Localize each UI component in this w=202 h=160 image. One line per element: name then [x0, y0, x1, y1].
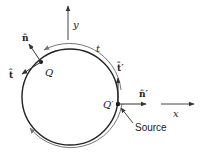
x-axis-label: x: [173, 108, 179, 119]
t-hat-label: t̂: [9, 68, 14, 80]
boundary-diagram: y x n̂ t̂ Q t t̂′ n̂′ Q′ Source: [0, 0, 202, 160]
t-label: t: [96, 43, 101, 54]
boundary-circle: [22, 49, 118, 145]
Q-label: Q: [45, 67, 53, 78]
Q-prime-label: Q′: [103, 99, 114, 110]
n-hat-label: n̂: [22, 33, 29, 43]
y-axis-label: y: [72, 19, 79, 30]
source-pointer: [121, 108, 133, 123]
normal-vector-Q: [29, 44, 41, 62]
n-hat-prime-label: n̂′: [139, 89, 149, 99]
t-hat-prime-label: t̂′: [117, 61, 124, 73]
tangent-vector-Q: [22, 62, 41, 74]
source-label: Source: [135, 122, 167, 133]
